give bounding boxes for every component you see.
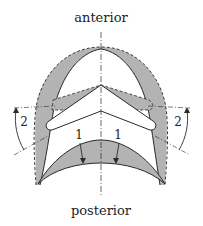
posterior-crescent <box>38 140 165 184</box>
label-2-left: 2 <box>20 115 28 129</box>
label-2-right: 2 <box>174 115 182 129</box>
label-posterior: posterior <box>71 203 132 218</box>
anatomical-diagram: anterior posterior 1 1 2 2 <box>0 0 203 226</box>
label-anterior: anterior <box>74 10 128 25</box>
label-1-right: 1 <box>114 128 122 142</box>
label-1-left: 1 <box>75 128 83 142</box>
